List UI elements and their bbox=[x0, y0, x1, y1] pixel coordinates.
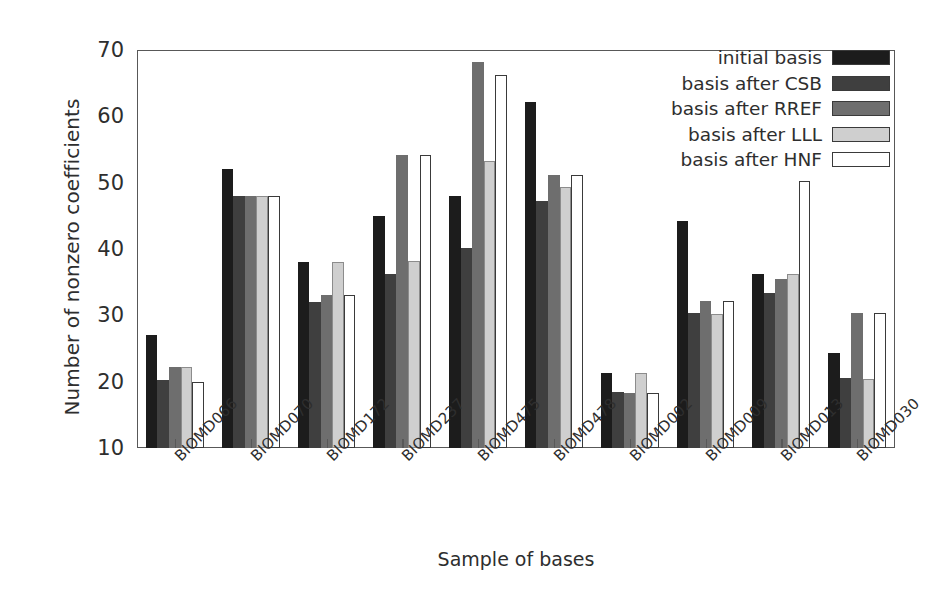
bar bbox=[408, 261, 420, 448]
bar bbox=[157, 380, 169, 448]
legend-item-0: initial basis bbox=[600, 46, 890, 69]
bar bbox=[700, 301, 712, 448]
legend-swatch bbox=[832, 127, 890, 142]
bar bbox=[495, 75, 507, 448]
legend-label: initial basis bbox=[718, 47, 822, 68]
legend-label: basis after LLL bbox=[688, 124, 822, 145]
bar-group-biomd066 bbox=[146, 50, 204, 448]
bar bbox=[146, 335, 158, 448]
bar bbox=[332, 262, 344, 448]
bar bbox=[612, 392, 624, 448]
bar bbox=[472, 62, 484, 448]
bar bbox=[169, 367, 181, 448]
bar bbox=[571, 175, 583, 448]
y-axis-title: Number of nonzero coefficients bbox=[60, 47, 84, 467]
legend-swatch bbox=[832, 152, 890, 167]
bar bbox=[484, 161, 496, 448]
bar bbox=[321, 295, 333, 448]
bar bbox=[840, 378, 852, 448]
bar bbox=[420, 155, 432, 448]
bar bbox=[268, 196, 280, 448]
bar bbox=[461, 248, 473, 448]
legend-label: basis after HNF bbox=[681, 149, 822, 170]
legend-label: basis after CSB bbox=[682, 73, 822, 94]
bar bbox=[851, 313, 863, 448]
bar bbox=[764, 293, 776, 448]
bar bbox=[711, 314, 723, 448]
bar bbox=[396, 155, 408, 448]
chart-legend: initial basisbasis after CSBbasis after … bbox=[600, 46, 890, 174]
bar bbox=[560, 187, 572, 448]
bar-group-biomd478 bbox=[525, 50, 583, 448]
bar-group-biomd172 bbox=[298, 50, 356, 448]
legend-label: basis after RREF bbox=[671, 98, 822, 119]
x-axis-title: Sample of bases bbox=[137, 548, 895, 570]
legend-item-1: basis after CSB bbox=[600, 72, 890, 95]
bar bbox=[245, 196, 257, 448]
bar bbox=[688, 313, 700, 448]
legend-swatch bbox=[832, 76, 890, 91]
legend-item-2: basis after RREF bbox=[600, 97, 890, 120]
bar bbox=[775, 279, 787, 448]
bar-group-biomd237 bbox=[373, 50, 431, 448]
legend-swatch bbox=[832, 101, 890, 116]
bar-group-biomd070 bbox=[222, 50, 280, 448]
legend-swatch bbox=[832, 50, 890, 65]
legend-item-4: basis after HNF bbox=[600, 148, 890, 171]
bar bbox=[787, 274, 799, 448]
bar-group-biomd475 bbox=[449, 50, 507, 448]
bar bbox=[799, 181, 811, 448]
bar bbox=[385, 274, 397, 448]
bar bbox=[256, 196, 268, 448]
bar-chart-figure: Number of nonzero coefficients 706050403… bbox=[0, 0, 943, 604]
legend-item-3: basis after LLL bbox=[600, 123, 890, 146]
bar bbox=[548, 175, 560, 448]
bar bbox=[309, 302, 321, 448]
